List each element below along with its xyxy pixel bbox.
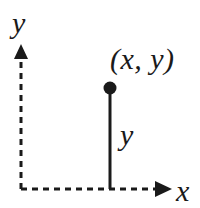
x-axis-label: x: [176, 176, 189, 206]
coordinate-point-diagram: y x (x, y) y: [0, 0, 200, 208]
diagram-canvas: [0, 0, 200, 208]
segment-length-label: y: [120, 120, 133, 150]
y-axis-label: y: [12, 8, 25, 38]
data-point-marker: [104, 82, 117, 95]
point-coordinate-label: (x, y): [110, 44, 175, 74]
x-axis-arrowhead-icon: [155, 181, 172, 197]
y-axis-arrowhead-icon: [14, 44, 28, 59]
